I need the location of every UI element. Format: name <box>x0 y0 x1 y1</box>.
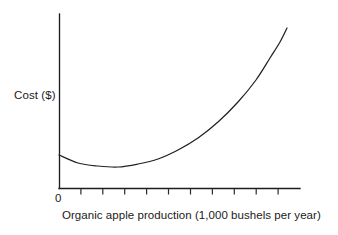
origin-label: 0 <box>55 193 61 205</box>
x-axis-tick-group <box>81 189 278 195</box>
chart-plot-area <box>0 0 338 235</box>
cost-curve-line <box>59 28 287 167</box>
cost-curve-chart: Cost ($) 0 Organic apple production (1,0… <box>0 0 338 235</box>
x-axis-label: Organic apple production (1,000 bushels … <box>62 210 321 222</box>
y-axis-label: Cost ($) <box>14 90 56 102</box>
